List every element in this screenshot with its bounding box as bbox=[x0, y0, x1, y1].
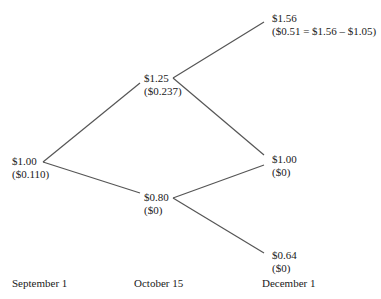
node-updown-price: $1.00 bbox=[272, 153, 297, 166]
node-downdown-price: $0.64 bbox=[272, 249, 297, 262]
node-up: $1.25 ($0.237) bbox=[144, 72, 182, 98]
date-label-september-1: September 1 bbox=[12, 277, 67, 290]
node-updown-value: ($0) bbox=[272, 166, 297, 179]
node-root-price: $1.00 bbox=[12, 155, 49, 168]
branch-root-down bbox=[43, 162, 140, 193]
node-root: $1.00 ($0.110) bbox=[12, 155, 49, 181]
node-upup-price: $1.56 bbox=[272, 12, 376, 25]
node-up-price: $1.25 bbox=[144, 72, 182, 85]
node-down-price: $0.80 bbox=[144, 191, 169, 204]
node-root-value: ($0.110) bbox=[12, 168, 49, 181]
branch-down-downdown bbox=[173, 198, 264, 253]
tree-branches bbox=[0, 0, 381, 299]
node-upup: $1.56 ($0.51 = $1.56 – $1.05) bbox=[272, 12, 376, 38]
node-updown: $1.00 ($0) bbox=[272, 153, 297, 179]
binomial-tree-diagram: $1.00 ($0.110) $1.25 ($0.237) $0.80 ($0)… bbox=[0, 0, 381, 299]
branch-down-updown bbox=[173, 165, 264, 198]
node-up-value: ($0.237) bbox=[144, 85, 182, 98]
node-downdown-value: ($0) bbox=[272, 262, 297, 275]
node-down-value: ($0) bbox=[144, 204, 169, 217]
date-label-october-15: October 15 bbox=[134, 277, 183, 290]
branch-up-upup bbox=[173, 22, 264, 78]
branch-up-updown bbox=[173, 78, 264, 155]
node-upup-value: ($0.51 = $1.56 – $1.05) bbox=[272, 25, 376, 38]
node-downdown: $0.64 ($0) bbox=[272, 249, 297, 275]
date-label-december-1: December 1 bbox=[262, 277, 315, 290]
node-down: $0.80 ($0) bbox=[144, 191, 169, 217]
branch-root-up bbox=[43, 83, 140, 162]
